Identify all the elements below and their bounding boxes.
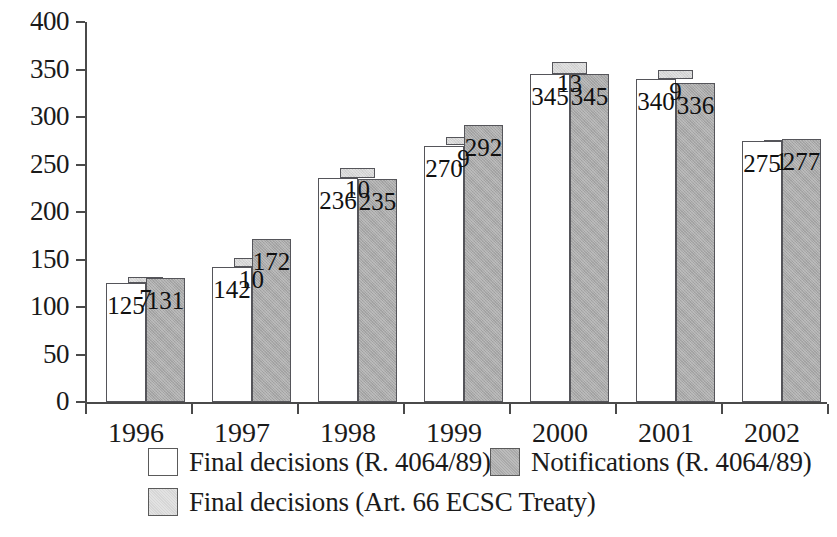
bar-value-final-decisions: 270 — [424, 156, 464, 181]
x-axis-label-2001: 2001 — [613, 419, 719, 447]
bar-notifications[interactable] — [676, 83, 715, 402]
bar-value-notifications: 131 — [146, 288, 185, 313]
legend-item-final-decisions-r406489[interactable]: Final decisions (R. 4064/89) — [148, 448, 491, 476]
legend-swatch-light — [148, 488, 178, 516]
y-tick — [76, 211, 85, 213]
x-tick — [297, 404, 299, 414]
y-tick-label: 100 — [0, 293, 69, 320]
x-axis-label-2002: 2002 — [719, 419, 825, 447]
y-tick — [76, 21, 85, 23]
bar-notifications[interactable] — [570, 74, 609, 402]
x-tick — [721, 404, 723, 414]
x-tick — [403, 404, 405, 414]
bar-value-notifications: 292 — [464, 135, 503, 160]
x-axis-line — [85, 402, 827, 404]
y-tick-label: 400 — [0, 8, 69, 35]
x-axis-label-1999: 1999 — [401, 419, 507, 447]
bar-final-decisions[interactable] — [636, 79, 676, 402]
y-tick-label: 50 — [0, 341, 69, 368]
legend-swatch-white — [148, 448, 178, 476]
y-tick — [76, 69, 85, 71]
x-tick — [509, 404, 511, 414]
bar-value-notifications: 235 — [358, 189, 397, 214]
bar-notifications[interactable] — [782, 139, 821, 402]
x-axis-label-1998: 1998 — [295, 419, 401, 447]
bar-value-final-decisions: 340 — [636, 89, 676, 114]
x-tick — [191, 404, 193, 414]
y-tick-label: 0 — [0, 388, 69, 415]
x-axis-label-1996: 1996 — [83, 419, 189, 447]
y-tick-label: 150 — [0, 246, 69, 273]
bar-value-notifications: 172 — [252, 249, 291, 274]
bar-value-final-decisions: 236 — [318, 188, 358, 213]
plot-area: 050100150200250300350400 712513110142172… — [0, 0, 837, 420]
bar-value-final-decisions: 345 — [530, 84, 570, 109]
x-axis-label-1997: 1997 — [189, 419, 295, 447]
y-tick — [76, 354, 85, 356]
bar-value-final-decisions: 125 — [106, 293, 146, 318]
y-tick — [76, 401, 85, 403]
bar-chart: 050100150200250300350400 712513110142172… — [0, 0, 837, 537]
bar-value-notifications: 345 — [570, 84, 609, 109]
bar-final-decisions[interactable] — [530, 74, 570, 402]
x-tick — [827, 404, 829, 414]
y-tick-label: 350 — [0, 56, 69, 83]
legend-label: Notifications (R. 4064/89) — [531, 449, 812, 476]
y-tick-label: 200 — [0, 198, 69, 225]
bar-value-final-decisions: 275 — [742, 151, 782, 176]
bar-value-notifications: 336 — [676, 93, 715, 118]
legend-label: Final decisions (Art. 66 ECSC Treaty) — [189, 489, 596, 516]
x-axis-label-2000: 2000 — [507, 419, 613, 447]
x-tick — [615, 404, 617, 414]
bar-value-final-decisions: 142 — [212, 277, 252, 302]
y-tick — [76, 259, 85, 261]
bar-value-notifications: 277 — [782, 149, 821, 174]
x-tick — [85, 404, 87, 414]
y-tick-label: 300 — [0, 103, 69, 130]
y-tick — [76, 116, 85, 118]
y-tick — [76, 164, 85, 166]
bar-final-decisions[interactable] — [742, 141, 782, 402]
legend-swatch-dark — [490, 448, 520, 476]
y-axis-line — [85, 22, 87, 404]
legend-label: Final decisions (R. 4064/89) — [189, 449, 491, 476]
y-tick-label: 250 — [0, 151, 69, 178]
legend: Final decisions (R. 4064/89) Notificatio… — [0, 440, 837, 537]
legend-item-final-decisions-art66-ecsc[interactable]: Final decisions (Art. 66 ECSC Treaty) — [148, 488, 596, 516]
bar-final-decisions[interactable] — [424, 146, 464, 403]
y-tick — [76, 306, 85, 308]
legend-item-notifications-r406489[interactable]: Notifications (R. 4064/89) — [490, 448, 812, 476]
